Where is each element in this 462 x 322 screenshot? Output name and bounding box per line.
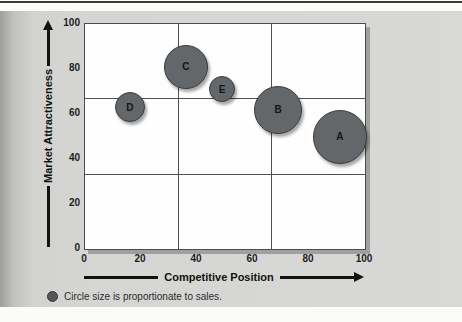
y-axis-label: Market Attractiveness [42, 66, 54, 186]
y-axis-arrow-line [47, 186, 50, 247]
chart-panel: Market Attractiveness ABCDE Competitive … [0, 11, 462, 307]
top-divider-rule [0, 1, 462, 3]
y-tick-label: 60 [0, 107, 80, 119]
right-arrowhead-icon [354, 272, 364, 282]
bubble-label: C [182, 61, 189, 72]
x-axis-label: Competitive Position [158, 271, 279, 283]
y-tick-label: 80 [0, 62, 80, 74]
x-tick-label: 40 [176, 253, 216, 265]
figure-page: Market Attractiveness ABCDE Competitive … [0, 0, 462, 322]
x-axis-title: Competitive Position [84, 270, 364, 284]
bubble-d: D [115, 92, 145, 122]
x-tick-label: 80 [288, 253, 328, 265]
y-tick-label: 20 [0, 197, 80, 209]
x-tick-label: 100 [344, 253, 384, 265]
y-axis-title: Market Attractiveness [41, 20, 55, 247]
plot-area: ABCDE [84, 23, 366, 250]
y-tick-label: 40 [0, 152, 80, 164]
bubble-a: A [313, 110, 367, 164]
bubble-b: B [254, 86, 302, 134]
x-axis-arrow-line [280, 276, 354, 279]
bubble-label: B [275, 104, 282, 115]
y-tick-label: 100 [0, 17, 80, 29]
x-axis-arrow-line [84, 276, 158, 279]
legend-note: Circle size is proportionate to sales. [47, 290, 222, 303]
gridline-horizontal [85, 174, 365, 175]
x-tick-label: 60 [232, 253, 272, 265]
bubble-label: E [219, 84, 226, 95]
gridline-vertical [271, 24, 272, 249]
x-tick-label: 20 [120, 253, 160, 265]
y-axis-arrow-line [47, 30, 50, 66]
bubble-label: A [336, 131, 343, 142]
legend-note-text: Circle size is proportionate to sales. [64, 291, 222, 302]
x-tick-label: 0 [64, 253, 104, 265]
bubble-c: C [164, 45, 208, 89]
bullet-circle-icon [47, 291, 58, 302]
bubble-label: D [126, 102, 133, 113]
